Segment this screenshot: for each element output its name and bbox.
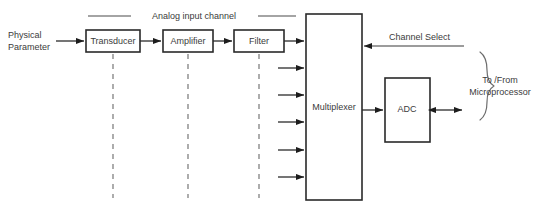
block-amplifier-label: Amplifier — [170, 36, 205, 46]
channel-select-label: Channel Select — [389, 32, 451, 42]
microprocessor-brace — [480, 52, 494, 120]
physical-parameter-label-line2: Parameter — [8, 42, 50, 52]
block-diagram-canvas: Analog input channel Physical Parameter … — [0, 0, 535, 210]
block-filter-label: Filter — [249, 36, 269, 46]
block-transducer-label: Transducer — [90, 36, 135, 46]
block-multiplexer-label: Multiplexer — [312, 102, 356, 112]
microprocessor-label-line1: To /From — [482, 75, 518, 85]
microprocessor-label-line2: Microprocessor — [469, 87, 531, 97]
diagram-title: Analog input channel — [152, 11, 236, 21]
physical-parameter-label-line1: Physical — [8, 30, 42, 40]
block-adc-label: ADC — [397, 104, 417, 114]
analog-input-channel-diagram: Analog input channel Physical Parameter … — [0, 0, 535, 210]
